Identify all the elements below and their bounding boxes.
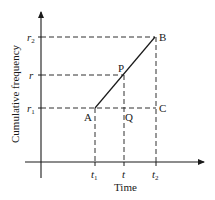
x-tick-label-t1: t1 xyxy=(91,168,98,182)
segment-ab xyxy=(95,37,155,108)
x-axis-title: Time xyxy=(114,181,137,193)
point-label-q: Q xyxy=(125,111,133,123)
point-label-p: P xyxy=(118,62,124,74)
x-tick-label-t2: t2 xyxy=(152,168,159,182)
point-label-b: B xyxy=(159,31,166,43)
y-tick-label-r2: r2 xyxy=(27,31,35,45)
x-tick-label-t: t xyxy=(122,168,126,180)
point-label-a: A xyxy=(84,111,92,123)
y-tick-label-r1: r1 xyxy=(27,102,35,116)
y-tick-label-r: r xyxy=(29,69,34,81)
point-label-c: C xyxy=(159,102,166,114)
y-axis-title: Cumulative frequency xyxy=(9,44,21,143)
cumulative-frequency-diagram: r2 r r1 t1 t t2 Time Cumulative frequenc… xyxy=(0,0,215,200)
